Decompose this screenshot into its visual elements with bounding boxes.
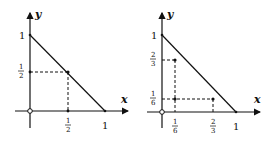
origin-open-circle bbox=[28, 109, 33, 114]
svg-text:1: 1 bbox=[173, 118, 177, 126]
diagram-right: y x 1 2 3 1 6 1 6 bbox=[147, 8, 261, 135]
svg-text:1: 1 bbox=[66, 117, 70, 125]
point-sixth-sixth bbox=[173, 97, 176, 100]
y-axis-label: y bbox=[166, 8, 175, 21]
point-half-half bbox=[66, 70, 69, 73]
tick-dot-x-half bbox=[67, 110, 70, 113]
tick-dot-y-half bbox=[29, 71, 32, 74]
svg-text:2: 2 bbox=[151, 51, 155, 59]
x-tick-two-thirds: 2 3 bbox=[210, 118, 216, 135]
svg-text:3: 3 bbox=[151, 60, 155, 68]
svg-text:1: 1 bbox=[151, 90, 155, 98]
diagram-left: y x 1 1 2 1 2 1 bbox=[15, 8, 128, 134]
svg-text:2: 2 bbox=[66, 126, 70, 134]
svg-text:1: 1 bbox=[19, 63, 23, 71]
tick-dot-x-1 bbox=[104, 110, 107, 113]
point-sixth-two-thirds bbox=[173, 58, 176, 61]
tick-dot-y-1 bbox=[161, 34, 164, 37]
y-tick-one-sixth: 1 6 bbox=[150, 90, 156, 107]
y-tick-half: 1 2 bbox=[18, 63, 24, 80]
y-tick-two-thirds: 2 3 bbox=[150, 51, 156, 68]
origin-open-circle bbox=[160, 110, 165, 115]
constraint-line bbox=[162, 35, 236, 112]
svg-text:3: 3 bbox=[211, 127, 215, 135]
tick-dot-y-1 bbox=[29, 34, 32, 37]
y-axis-label: y bbox=[34, 8, 43, 21]
tick-dot-x-1 bbox=[235, 111, 238, 114]
x-tick-1: 1 bbox=[102, 120, 108, 131]
y-tick-1: 1 bbox=[19, 30, 25, 41]
x-tick-1: 1 bbox=[233, 121, 239, 132]
point-two-thirds-sixth bbox=[211, 97, 214, 100]
x-tick-one-sixth: 1 6 bbox=[172, 118, 178, 135]
x-axis-label: x bbox=[253, 93, 261, 106]
y-tick-1: 1 bbox=[151, 30, 157, 41]
svg-text:2: 2 bbox=[19, 72, 23, 80]
svg-text:2: 2 bbox=[211, 118, 215, 126]
x-axis-label: x bbox=[120, 93, 128, 106]
svg-text:6: 6 bbox=[173, 127, 178, 135]
svg-text:6: 6 bbox=[151, 99, 156, 107]
x-tick-half: 1 2 bbox=[65, 117, 71, 134]
